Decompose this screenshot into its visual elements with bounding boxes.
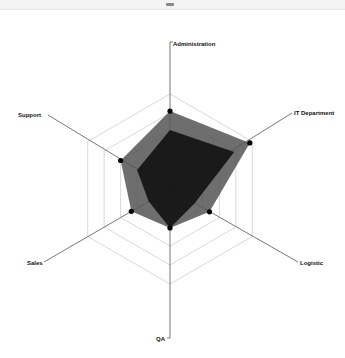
axis-label-logistic: Logistic (300, 260, 324, 266)
axis-label-support: Support (18, 112, 41, 118)
axis-label-sales: Sales (27, 260, 43, 266)
axis-label-it-department: IT Department (294, 110, 334, 116)
radar-series (118, 109, 252, 231)
radar-chart: Administration IT Department Logistic QA… (0, 0, 345, 358)
data-point-marker (247, 140, 252, 145)
data-point-marker (129, 209, 134, 214)
data-point-marker (118, 158, 123, 163)
axis-label-qa: QA (156, 336, 166, 342)
data-point-marker (167, 109, 172, 114)
axis-label-administration: Administration (173, 41, 216, 47)
data-point-marker (207, 209, 212, 214)
